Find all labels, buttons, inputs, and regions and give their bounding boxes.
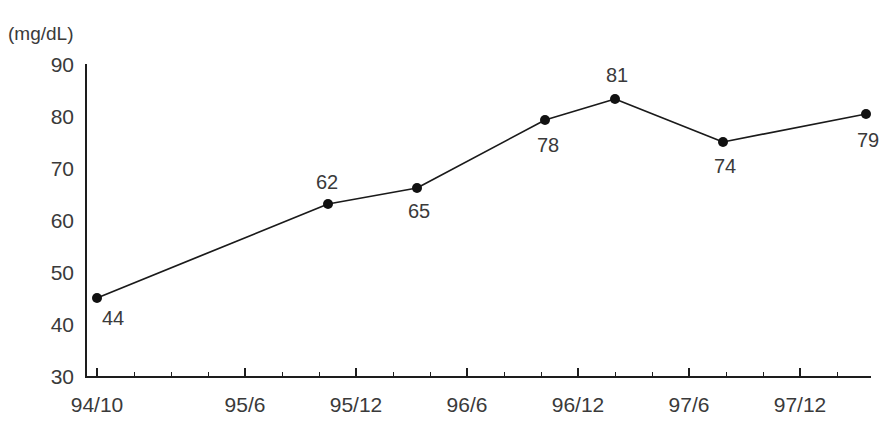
data-point-marker — [92, 293, 102, 303]
y-tick-label: 60 — [51, 209, 74, 232]
y-tick-label: 40 — [51, 313, 74, 336]
data-point-marker — [540, 115, 550, 125]
data-point-marker — [323, 199, 333, 209]
data-point-marker — [412, 183, 422, 193]
blood-sugar-line-chart: (mg/dL) 90807060504030 94/1095/695/1296/… — [0, 0, 893, 435]
data-point-label: 78 — [537, 134, 559, 156]
y-axis-unit-label: (mg/dL) — [8, 23, 73, 44]
x-axis-tick-labels: 94/1095/695/1296/696/1297/697/12 — [71, 393, 827, 416]
x-tick-label: 96/6 — [447, 393, 488, 416]
data-point-marker — [718, 137, 728, 147]
chart-canvas: (mg/dL) 90807060504030 94/1095/695/1296/… — [0, 0, 893, 435]
data-point-label: 65 — [408, 200, 430, 222]
x-tick-label: 96/12 — [552, 393, 605, 416]
data-point-label: 79 — [857, 129, 879, 151]
y-tick-label: 70 — [51, 157, 74, 180]
x-tick-label: 95/12 — [330, 393, 383, 416]
x-tick-label: 97/6 — [669, 393, 710, 416]
data-point-label: 81 — [606, 64, 628, 86]
y-tick-label: 50 — [51, 261, 74, 284]
x-tick-label: 95/6 — [225, 393, 266, 416]
data-point-markers — [92, 94, 871, 303]
data-point-marker — [610, 94, 620, 104]
y-tick-label: 90 — [51, 53, 74, 76]
x-tick-label: 97/12 — [774, 393, 827, 416]
y-tick-label: 30 — [51, 365, 74, 388]
chart-axes — [86, 64, 871, 377]
data-point-value-labels: 44626578817479 — [102, 64, 879, 329]
x-tick-label: 94/10 — [71, 393, 124, 416]
data-point-marker — [861, 109, 871, 119]
data-point-label: 44 — [102, 307, 124, 329]
y-axis-tick-labels: 90807060504030 — [51, 53, 74, 388]
y-tick-label: 80 — [51, 105, 74, 128]
data-point-label: 62 — [316, 171, 338, 193]
data-point-label: 74 — [714, 155, 736, 177]
data-series-line — [97, 99, 866, 298]
axis-tick-marks — [97, 368, 837, 377]
